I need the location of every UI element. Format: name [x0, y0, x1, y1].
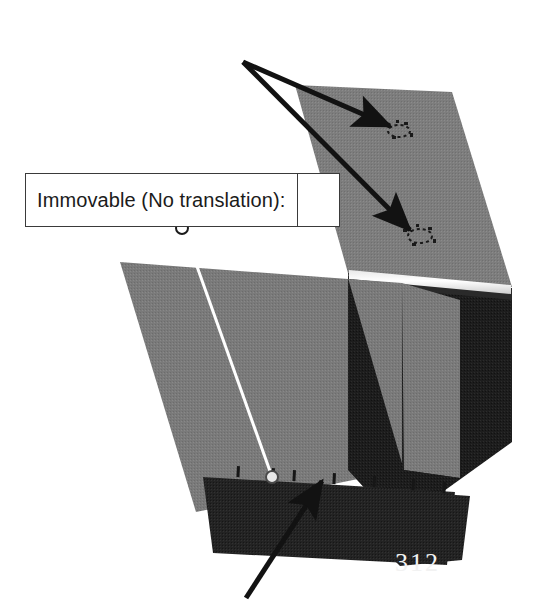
callout-value-cell[interactable] — [297, 174, 339, 226]
callout-label: Immovable (No translation): — [26, 174, 297, 226]
page-watermark: 312 — [395, 548, 440, 578]
cad-model-scene — [0, 0, 555, 604]
callout-leader-target-dot — [266, 471, 278, 483]
figure-canvas: 312 Immovable (No translation): — [0, 0, 555, 604]
immovable-restraint-callout[interactable]: Immovable (No translation): — [25, 173, 340, 227]
right-web-panel — [402, 283, 460, 478]
